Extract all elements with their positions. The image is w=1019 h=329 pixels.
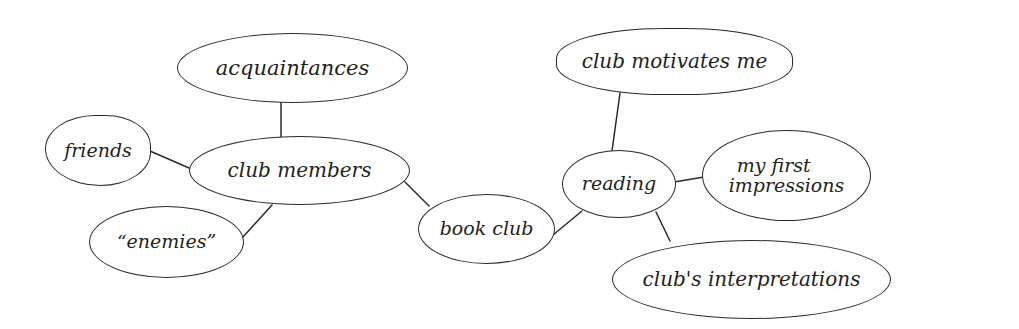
edge-club-members-friends: [150, 151, 189, 168]
node-label-line-2: impressions: [729, 176, 845, 196]
node-label: book club: [440, 219, 534, 239]
edge-club-members-enemies: [242, 205, 272, 238]
node-label: “enemies”: [117, 232, 216, 252]
node-book-club-central: book club: [418, 194, 555, 264]
edge-reading-first-impressions: [674, 177, 704, 182]
edge-reading-club-motivates-me: [612, 93, 620, 151]
node-label-group: my first impressions: [729, 156, 845, 196]
node-label-line-1: my first: [729, 156, 845, 176]
edge-club-members-book-club: [405, 182, 429, 206]
node-club-motivates-me: club motivates me: [556, 28, 793, 95]
node-my-first-impressions: my first impressions: [702, 130, 871, 221]
node-label: club members: [228, 160, 372, 181]
node-label: reading: [582, 174, 656, 194]
node-label: friends: [64, 141, 132, 161]
node-clubs-interpretations: club's interpretations: [612, 240, 891, 319]
mind-map-canvas: acquaintances friends club members “enem…: [0, 0, 1019, 329]
node-club-members: club members: [189, 136, 410, 205]
node-friends: friends: [45, 115, 151, 186]
edge-reading-interpretations: [656, 212, 670, 241]
edge-book-club-reading: [553, 211, 582, 235]
node-label: club motivates me: [582, 51, 768, 72]
node-acquaintances: acquaintances: [177, 33, 408, 103]
node-enemies: “enemies”: [89, 206, 244, 278]
node-label: acquaintances: [216, 57, 369, 79]
node-label: club's interpretations: [643, 269, 861, 290]
node-reading: reading: [562, 150, 676, 218]
